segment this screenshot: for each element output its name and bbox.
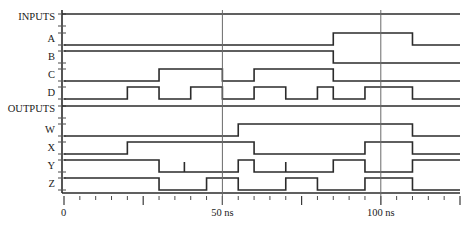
axis-tick-label-100: 100 ns bbox=[367, 207, 395, 218]
axis-tick-label-0: 0 bbox=[61, 207, 66, 218]
signal-label-c: C bbox=[48, 69, 55, 80]
waveform-w bbox=[64, 124, 460, 136]
signal-label-z: Z bbox=[49, 178, 55, 189]
signal-label-d: D bbox=[47, 87, 55, 98]
signal-label-w: W bbox=[45, 124, 55, 135]
waveform-x bbox=[64, 142, 460, 154]
group-label-inputs: INPUTS bbox=[18, 11, 55, 22]
waveform-a bbox=[64, 33, 460, 45]
waveform-d bbox=[64, 87, 460, 99]
signal-label-x: X bbox=[47, 142, 55, 153]
group-label-outputs: OUTPUTS bbox=[8, 103, 55, 114]
waveform-b bbox=[64, 51, 460, 63]
signal-label-b: B bbox=[48, 51, 55, 62]
timing-diagram-canvas: INPUTSOUTPUTSABCDWXYZ050 ns100 ns bbox=[0, 0, 463, 230]
waveform-y bbox=[64, 160, 460, 172]
signal-label-a: A bbox=[47, 33, 55, 44]
waveform-z bbox=[64, 178, 460, 190]
signal-label-y: Y bbox=[47, 160, 55, 171]
timing-diagram: INPUTSOUTPUTSABCDWXYZ050 ns100 ns bbox=[0, 0, 463, 230]
axis-tick-label-50: 50 ns bbox=[211, 207, 233, 218]
waveform-c bbox=[64, 69, 460, 81]
